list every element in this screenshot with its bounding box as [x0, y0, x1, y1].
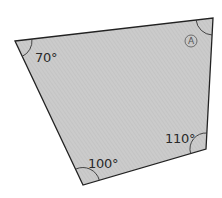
- angle-label-top-left: 70°: [35, 50, 57, 65]
- quadrilateral-diagram: 70° A 110° 100°: [0, 0, 222, 198]
- angle-label-bottom: 100°: [88, 156, 118, 171]
- angle-label-bottom-right: 110°: [165, 131, 195, 146]
- unknown-angle-label: A: [188, 36, 195, 46]
